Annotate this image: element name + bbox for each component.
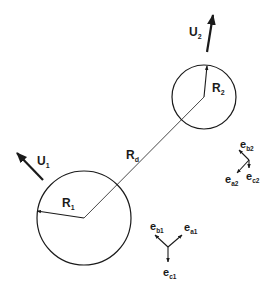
e-a2-label: ea2 <box>225 173 239 187</box>
e-b1-label: eb1 <box>150 220 164 234</box>
e-b1-arrow <box>155 235 168 247</box>
basis-triad-1 <box>155 235 182 262</box>
separation-line <box>84 97 204 218</box>
e-c2-label: ec2 <box>246 170 260 184</box>
radius-1-arrow <box>37 211 84 218</box>
radius-2-arrow <box>204 66 207 97</box>
velocity-1-label: U1 <box>37 154 50 169</box>
e-c1-label: ec1 <box>163 266 177 280</box>
radius-2-label: R2 <box>212 81 225 96</box>
velocity-2-arrow <box>207 15 213 52</box>
e-a1-label: ea1 <box>184 221 198 235</box>
radius-1-label: R1 <box>62 196 75 211</box>
e-a1-arrow <box>168 235 182 247</box>
e-b2-label: eb2 <box>240 138 254 152</box>
velocity-2-label: U2 <box>189 25 202 40</box>
two-sphere-diagram: U1 U2 R1 R2 Rd eb1 ea1 ec1 eb2 ea2 ec2 <box>0 0 273 292</box>
separation-label: Rd <box>126 148 139 163</box>
